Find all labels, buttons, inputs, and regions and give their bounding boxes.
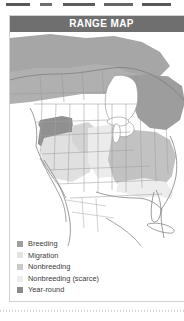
legend-swatch-breeding (17, 241, 23, 247)
legend-item-year-round: Year-round (17, 284, 184, 296)
legend-swatch-nonbreeding-scarce (17, 276, 23, 282)
section-divider (0, 310, 184, 312)
range-map-card-root: RANGE MAP (0, 0, 184, 321)
north-america-map-svg (10, 32, 184, 246)
range-map-card: RANGE MAP (9, 15, 184, 302)
legend-item-nonbreeding-scarce: Nonbreeding (scarce) (17, 273, 184, 285)
legend-item-migration: Migration (17, 250, 184, 262)
legend-label-nonbreeding: Nonbreeding (28, 261, 70, 273)
card-header: RANGE MAP (10, 16, 184, 32)
water-lake-michigan (113, 124, 120, 143)
legend-swatch-nonbreeding (17, 264, 23, 270)
legend-item-breeding: Breeding (17, 238, 184, 250)
legend-swatch-year-round (17, 287, 23, 293)
legend-label-nonbreeding-scarce: Nonbreeding (scarce) (28, 273, 99, 285)
range-map-image (10, 32, 184, 246)
page-text-cutoff (0, 0, 184, 9)
page-title: RANGE MAP (61, 16, 134, 32)
legend-item-nonbreeding: Nonbreeding (17, 261, 184, 273)
map-legend: Breeding Migration Nonbreeding Nonbreedi… (10, 238, 184, 296)
legend-swatch-migration (17, 252, 23, 258)
legend-label-migration: Migration (28, 250, 58, 262)
legend-label-breeding: Breeding (28, 238, 58, 250)
legend-label-year-round: Year-round (28, 284, 64, 296)
cutoff-text-ink (6, 3, 178, 6)
